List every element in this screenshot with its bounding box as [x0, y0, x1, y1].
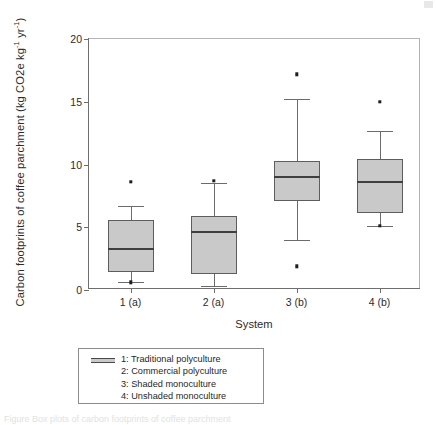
- outlier-point: [129, 180, 132, 183]
- median-line: [274, 176, 320, 178]
- whisker-upper: [131, 206, 132, 220]
- box-iqr: [274, 161, 320, 201]
- whisker-cap-upper: [367, 131, 393, 132]
- legend-entry: 1: Traditional polyculture: [121, 353, 227, 365]
- outlier-point: [378, 224, 381, 227]
- x-tick-label: 3 (b): [286, 296, 308, 308]
- y-tick-label: 20: [70, 33, 82, 45]
- y-tick-mark: [84, 102, 89, 103]
- legend-entry: 2: Commercial polyculture: [121, 365, 227, 377]
- y-tick-label: 0: [76, 284, 82, 296]
- legend: 1: Traditional polyculture2: Commercial …: [78, 348, 264, 404]
- y-axis-title-exponent-2: -1: [12, 21, 21, 28]
- figure-caption: Figure Box plots of carbon footprints of…: [4, 414, 432, 424]
- whisker-cap-lower: [284, 240, 310, 241]
- box-iqr: [191, 216, 237, 274]
- y-tick-label: 15: [70, 96, 82, 108]
- whisker-cap-upper: [201, 183, 227, 184]
- x-tick-mark: [380, 288, 381, 293]
- y-axis-title: Carbon footprints of coffee parchment (k…: [14, 12, 32, 312]
- x-axis-title: System: [88, 318, 420, 330]
- x-tick-label: 4 (b): [369, 296, 391, 308]
- box-iqr: [108, 220, 154, 273]
- y-axis-title-tail: ): [14, 18, 26, 22]
- outlier-point: [129, 281, 132, 284]
- outlier-point: [378, 100, 381, 103]
- whisker-cap-lower: [201, 286, 227, 287]
- outlier-point: [295, 72, 298, 75]
- box-iqr: [357, 159, 403, 213]
- y-axis-title-main: Carbon footprints of coffee parchment (k…: [14, 48, 26, 306]
- page-edge-artifact-icon: [424, 1, 433, 8]
- y-axis-title-exponent-1: -1: [12, 41, 21, 48]
- x-tick-label: 2 (a): [203, 296, 225, 308]
- whisker-upper: [297, 99, 298, 160]
- legend-entry: 3: Shaded monoculture: [121, 378, 227, 390]
- whisker-lower: [214, 274, 215, 287]
- x-tick-mark: [131, 288, 132, 293]
- whisker-cap-upper: [284, 99, 310, 100]
- median-line: [108, 248, 154, 250]
- x-tick-mark: [297, 288, 298, 293]
- box-fill-swatch-icon: [91, 358, 115, 363]
- y-tick-mark: [84, 165, 89, 166]
- y-axis-title-mid: yr: [14, 28, 26, 41]
- y-tick-mark: [84, 290, 89, 291]
- figure-root: Carbon footprints of coffee parchment (k…: [0, 0, 436, 425]
- legend-entries: 1: Traditional polyculture2: Commercial …: [121, 353, 227, 403]
- whisker-upper: [380, 131, 381, 160]
- legend-entry: 4: Unshaded monoculture: [121, 390, 227, 402]
- y-tick-label: 10: [70, 159, 82, 171]
- y-tick-mark: [84, 227, 89, 228]
- median-line: [191, 231, 237, 233]
- y-tick-label: 5: [76, 221, 82, 233]
- whisker-lower: [297, 201, 298, 240]
- plot-area: 05101520 1 (a)2 (a)3 (b)4 (b): [88, 38, 420, 289]
- x-tick-label: 1 (a): [120, 296, 142, 308]
- y-tick-mark: [84, 39, 89, 40]
- x-tick-mark: [214, 288, 215, 293]
- outlier-point: [212, 179, 215, 182]
- whisker-upper: [214, 183, 215, 216]
- whisker-cap-upper: [118, 206, 144, 207]
- median-line: [357, 181, 403, 183]
- outlier-point: [295, 264, 298, 267]
